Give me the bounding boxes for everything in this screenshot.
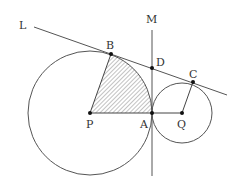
label-Q: Q [177,118,186,131]
label-L: L [19,19,27,32]
point-A [150,111,154,115]
label-M: M [146,13,157,26]
label-C: C [189,68,197,81]
shaded-sector-region [90,54,152,113]
label-B: B [106,39,114,52]
point-Q [180,111,184,115]
geometry-diagram: L M B D C P A Q [0,0,239,187]
label-D: D [156,56,165,69]
segment-QC [182,82,193,113]
point-P [88,111,92,115]
label-P: P [86,118,94,131]
point-B [109,52,113,56]
point-D [150,66,154,70]
label-A: A [139,118,149,131]
